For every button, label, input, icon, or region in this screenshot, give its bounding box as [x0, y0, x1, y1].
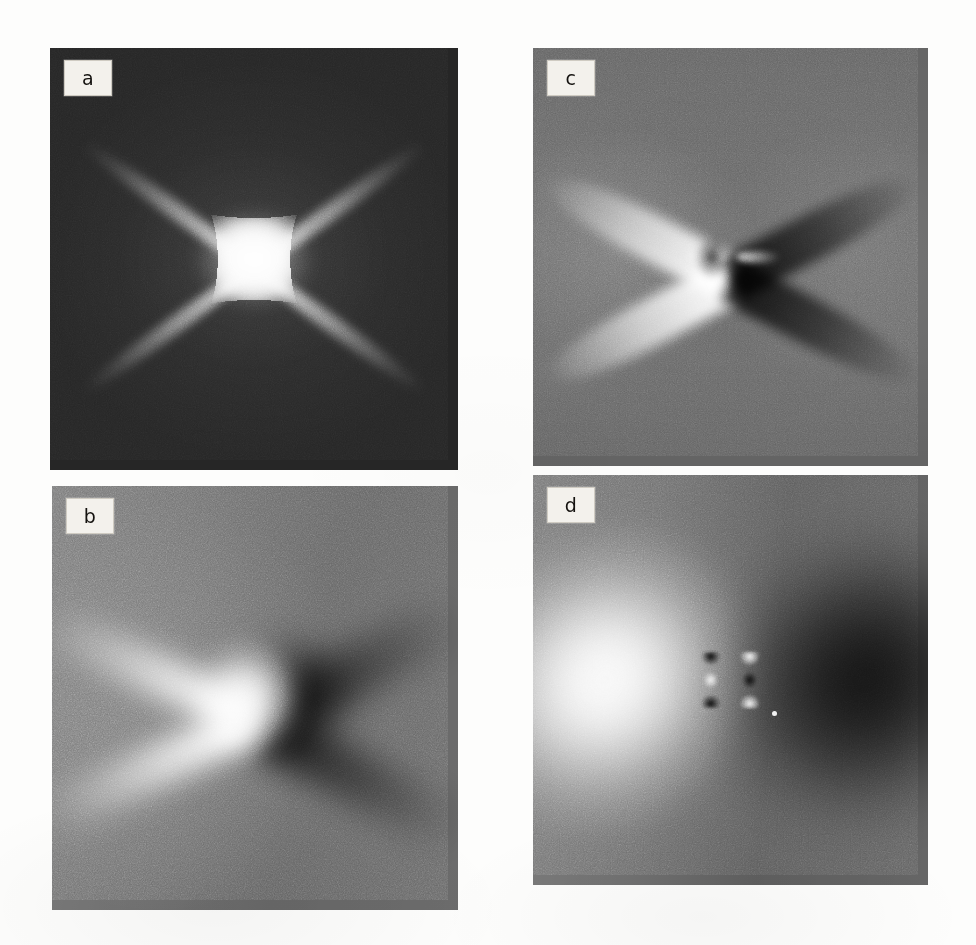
panel-b[interactable]: b [52, 486, 458, 910]
panel-b-label-chip: b [66, 498, 114, 534]
panel-a[interactable]: a [50, 48, 458, 470]
panel-d-centre-bowtie-dark [697, 652, 723, 708]
panel-d[interactable]: d [533, 475, 928, 885]
panel-d-label-chip: d [547, 487, 595, 523]
panel-a-astroid-core [192, 200, 316, 318]
panel-c-label-text: c [566, 69, 577, 88]
panel-d-bright-speck [772, 711, 777, 716]
panel-d-centre-bowtie-bright [736, 652, 762, 708]
panel-c-label-chip: c [547, 60, 595, 96]
panel-c[interactable]: c [533, 48, 928, 466]
panel-c-centre-flare-right [737, 252, 781, 263]
panel-b-bright-core [178, 637, 298, 759]
panel-d-label-text: d [565, 496, 578, 515]
panel-a-label-chip: a [64, 60, 112, 96]
panel-b-label-text: b [84, 507, 97, 526]
panel-a-label-text: a [82, 69, 94, 88]
figure-root: a b [0, 0, 976, 945]
panel-c-centre-dark-wedge [694, 235, 728, 279]
